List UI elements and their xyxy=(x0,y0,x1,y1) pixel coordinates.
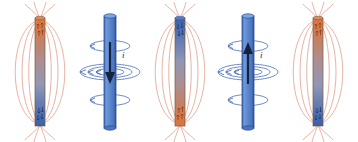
bar-magnet-2-svg xyxy=(140,0,220,142)
current-label-1: i xyxy=(122,50,125,60)
figure-canvas: i xyxy=(0,0,358,142)
bar-magnet-3-svg xyxy=(278,0,358,142)
panel-solenoid-1: i xyxy=(78,0,144,142)
panel-bar-magnet-1 xyxy=(0,0,80,142)
panel-bar-magnet-2 xyxy=(140,0,220,142)
magnet-body-1 xyxy=(35,16,45,126)
solenoid-1-svg: i xyxy=(78,0,144,142)
panel-solenoid-2: i xyxy=(216,0,282,142)
solenoid-2-svg: i xyxy=(216,0,282,142)
panel-bar-magnet-3 xyxy=(278,0,358,142)
current-label-2: i xyxy=(260,50,263,60)
magnet-body-3 xyxy=(313,16,323,126)
bar-magnet-1-svg xyxy=(0,0,80,142)
